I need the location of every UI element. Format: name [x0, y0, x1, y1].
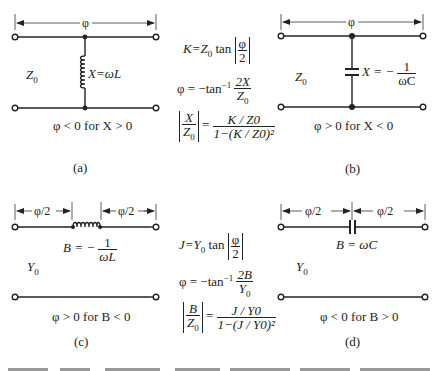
panel-b-line-impedance: Z0: [295, 70, 307, 87]
panel-c-span-right: φ/2: [118, 205, 134, 217]
panel-c-span-left: φ/2: [34, 205, 50, 217]
panel-c-label: (c): [74, 335, 88, 348]
panel-b-label: (b): [345, 162, 360, 175]
panel-d-condition: φ < 0 for B > 0: [320, 310, 399, 323]
terminal-icon: [12, 34, 18, 40]
terminal-icon: [153, 105, 159, 111]
inductor-icon: [81, 56, 86, 88]
panel-c-condition: φ > 0 for B < 0: [52, 310, 131, 323]
panel-d-span-left: φ/2: [305, 205, 321, 217]
panel-d-label: (d): [345, 335, 360, 348]
terminal-icon: [153, 34, 159, 40]
terminal-icon: [278, 104, 284, 110]
eq-phi-from-x: φ = −tan−1 2XZ0: [177, 75, 251, 106]
inductor-icon: [73, 223, 100, 228]
terminal-icon: [278, 33, 284, 39]
panel-a-line-impedance: Z0: [26, 68, 38, 85]
capacitor-icon: [350, 220, 355, 234]
terminal-icon: [278, 224, 284, 230]
panel-a-element-label: X=ωL: [88, 67, 121, 80]
panel-c-element-label: B = − 1ωL: [63, 236, 117, 263]
eq-k-definition: K=Z0 tan φ2: [183, 37, 250, 64]
panel-a-span-label: φ: [81, 17, 90, 29]
capacitor-icon: [345, 69, 359, 75]
terminal-icon: [420, 33, 426, 39]
eq-phi-from-b: φ = −tan−1 2BY0: [179, 268, 253, 299]
eq-b-normalized: BZ0 = J / Y01−(J / Y0)²: [183, 302, 276, 333]
terminal-icon: [153, 294, 159, 300]
panel-b-condition: φ > 0 for X < 0: [314, 119, 393, 132]
panel-d-element-label: B = ωC: [336, 238, 377, 251]
panel-b-span-label: φ: [347, 16, 356, 28]
panel-d-line-admittance: Y0: [296, 260, 308, 277]
panel-b-element-label: X = − 1ωC: [362, 60, 416, 87]
terminal-icon: [420, 104, 426, 110]
panel-d-span-right: φ/2: [377, 205, 393, 217]
terminal-icon: [422, 294, 428, 300]
terminal-icon: [12, 224, 18, 230]
panel-a-condition: φ < 0 for X > 0: [53, 119, 132, 132]
panel-c-right: [144, 204, 159, 300]
terminal-icon: [422, 224, 428, 230]
panel-c-line-admittance: Y0: [27, 260, 39, 277]
eq-j-definition: J=Y0 tan φ2: [179, 233, 243, 260]
terminal-icon: [278, 294, 284, 300]
eq-x-normalized: XZ0 = K / Z01−(K / Z0)²: [179, 111, 275, 142]
terminal-icon: [12, 105, 18, 111]
panel-a-label: (a): [73, 161, 87, 174]
terminal-icon: [153, 224, 159, 230]
terminal-icon: [12, 294, 18, 300]
